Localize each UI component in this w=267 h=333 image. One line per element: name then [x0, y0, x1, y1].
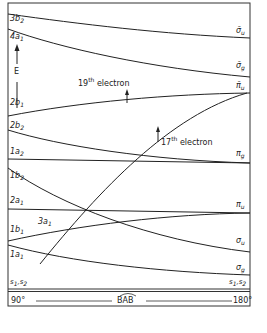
x-axis-lines: [0, 0, 267, 333]
x-axis-bab: BAB: [117, 297, 133, 305]
x-axis-180: 180°: [233, 297, 252, 305]
